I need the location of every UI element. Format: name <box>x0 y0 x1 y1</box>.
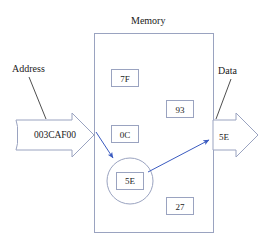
data-value-text: 5E <box>215 133 233 142</box>
memory-cell-value-5e-selected: 5E <box>118 177 142 186</box>
address-label: Address <box>12 64 45 74</box>
address-to-cell-arrow <box>96 132 113 158</box>
data-label: Data <box>218 66 237 76</box>
address-value-text: 003CAF00 <box>23 131 87 141</box>
memory-cell-value-0c: 0C <box>113 131 137 140</box>
memory-title: Memory <box>131 16 165 26</box>
memory-cell-value-27: 27 <box>168 203 192 212</box>
memory-cell-value-7f: 7F <box>113 75 137 84</box>
address-leader-line <box>29 77 46 119</box>
memory-diagram: Memory Address Data 003CAF00 5E 7F 93 0C… <box>0 0 273 242</box>
data-leader-line <box>216 79 231 119</box>
diagram-vector-layer <box>0 0 273 242</box>
cell-to-data-arrow <box>148 140 209 172</box>
memory-cell-value-93: 93 <box>168 106 192 115</box>
